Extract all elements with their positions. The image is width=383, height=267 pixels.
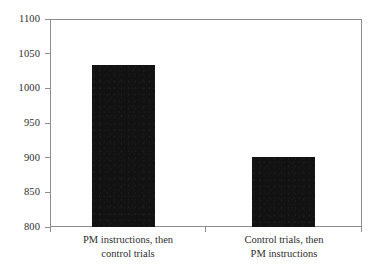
y-axis: 1100 1050 1000 950 900 850 800 (0, 19, 50, 227)
x-tick-mark-right (361, 227, 362, 232)
x-axis-label-category-1: Control trials, then PM instructions (206, 233, 362, 261)
bar-control-trials-then-pm-instructions[interactable] (252, 157, 315, 227)
y-tick-label: 800 (24, 219, 40, 235)
bar-pm-instructions-then-control-trials[interactable] (92, 65, 155, 227)
bars-layer (50, 19, 362, 227)
y-tick-label: 1050 (19, 46, 40, 62)
y-tick-label: 1100 (19, 11, 40, 27)
x-axis-label-line: PM instructions, then (50, 233, 206, 247)
x-tick-mark-center (205, 227, 206, 232)
x-axis-label-line: PM instructions (206, 247, 362, 261)
y-tick-label: 900 (24, 150, 40, 166)
bar-chart-figure: 1100 1050 1000 950 900 850 800 (0, 0, 383, 267)
x-axis-label-category-0: PM instructions, then control trials (50, 233, 206, 261)
x-tick-mark-left (50, 227, 51, 232)
y-tick-label: 1000 (19, 80, 40, 96)
x-axis-label-line: Control trials, then (206, 233, 362, 247)
y-tick-label: 950 (24, 115, 40, 131)
x-axis: PM instructions, then control trials Con… (50, 227, 362, 267)
x-axis-label-line: control trials (50, 247, 206, 261)
y-tick-label: 850 (24, 184, 40, 200)
